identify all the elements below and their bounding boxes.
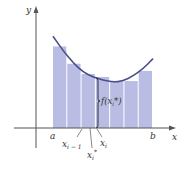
f-xi-star-label: f(xi*) [100,96,122,107]
y-axis-arrow [34,6,39,13]
riemann-sum-diagram: y x a b xi − 1 xi xi* f(xi*) [0,0,189,170]
x-axis-label: x [172,132,177,142]
riemann-rectangle [82,74,95,128]
x-i-leader [97,129,102,137]
x-star-label: xi* [87,148,97,161]
a-label: a [50,131,55,141]
riemann-rectangle [67,64,80,128]
x-i-label: xi [100,138,107,149]
riemann-rectangles [53,46,152,128]
riemann-rectangle [53,46,66,128]
riemann-rectangle [139,71,152,128]
x-star-leader [90,128,92,148]
x-axis-arrow [169,126,176,131]
b-label: b [150,131,156,141]
x-im1-leader [77,129,82,137]
y-axis-label: y [25,5,32,15]
riemann-rectangle [124,81,137,128]
x-im1-label: xi − 1 [62,139,82,150]
